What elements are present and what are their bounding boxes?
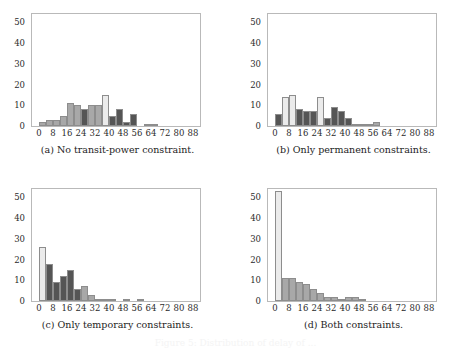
bar-d-x24 bbox=[317, 293, 324, 301]
x-tick-d-72: 72 bbox=[396, 304, 407, 313]
bars-c bbox=[32, 189, 200, 301]
x-tick-c-48: 48 bbox=[118, 304, 129, 313]
y-tick-c-40: 40 bbox=[14, 214, 25, 223]
bar-a-x48 bbox=[123, 122, 130, 126]
bar-d-x28 bbox=[324, 297, 331, 301]
x-tick-a-24: 24 bbox=[76, 129, 87, 138]
y-tick-b-10: 10 bbox=[250, 101, 261, 110]
y-tick-c-30: 30 bbox=[14, 235, 25, 244]
y-tick-a-10: 10 bbox=[14, 101, 25, 110]
plot-area-d bbox=[267, 188, 437, 302]
x-tick-d-40: 40 bbox=[340, 304, 351, 313]
y-tick-c-10: 10 bbox=[14, 276, 25, 285]
bar-b-x8 bbox=[289, 95, 296, 126]
y-tick-d-0: 0 bbox=[256, 297, 261, 306]
x-tick-c-72: 72 bbox=[160, 304, 171, 313]
bar-a-x40 bbox=[109, 116, 116, 126]
x-axis-labels-d: 0816243240485664728088 bbox=[267, 304, 437, 316]
x-tick-a-64: 64 bbox=[146, 129, 157, 138]
x-tick-d-8: 8 bbox=[286, 304, 291, 313]
subfigure-b: 01020304050 0816243240485664728088 (b) O… bbox=[236, 0, 471, 174]
x-tick-a-8: 8 bbox=[50, 129, 55, 138]
y-tick-c-0: 0 bbox=[20, 297, 25, 306]
subfigure-caption-d: (d) Both constraints. bbox=[236, 319, 471, 330]
bar-a-x4 bbox=[46, 120, 53, 126]
bar-a-x20 bbox=[74, 105, 81, 126]
bar-b-x28 bbox=[324, 118, 331, 126]
y-tick-d-40: 40 bbox=[250, 214, 261, 223]
x-tick-a-48: 48 bbox=[118, 129, 129, 138]
y-tick-d-20: 20 bbox=[250, 255, 261, 264]
x-tick-c-16: 16 bbox=[62, 304, 73, 313]
bar-a-x44 bbox=[116, 109, 123, 126]
y-tick-d-10: 10 bbox=[250, 276, 261, 285]
x-tick-b-32: 32 bbox=[326, 129, 337, 138]
x-tick-b-0: 0 bbox=[272, 129, 277, 138]
bar-c-x28 bbox=[88, 295, 95, 301]
y-axis-labels-c: 01020304050 bbox=[0, 188, 28, 302]
x-tick-a-88: 88 bbox=[188, 129, 199, 138]
x-tick-a-80: 80 bbox=[174, 129, 185, 138]
x-tick-d-16: 16 bbox=[298, 304, 309, 313]
bar-d-x20 bbox=[310, 289, 317, 301]
bar-d-x8 bbox=[289, 278, 296, 301]
x-tick-c-88: 88 bbox=[188, 304, 199, 313]
x-tick-a-32: 32 bbox=[90, 129, 101, 138]
y-axis-labels-d: 01020304050 bbox=[236, 188, 264, 302]
x-tick-d-24: 24 bbox=[312, 304, 323, 313]
y-tick-d-30: 30 bbox=[250, 235, 261, 244]
bar-d-x48 bbox=[359, 299, 366, 301]
x-tick-c-56: 56 bbox=[132, 304, 143, 313]
bar-a-x36 bbox=[102, 95, 109, 126]
bar-b-x40 bbox=[345, 118, 352, 126]
bar-c-x36 bbox=[102, 299, 109, 301]
x-tick-b-8: 8 bbox=[286, 129, 291, 138]
bar-b-x32 bbox=[331, 107, 338, 126]
x-tick-d-56: 56 bbox=[368, 304, 379, 313]
plot-area-c bbox=[31, 188, 201, 302]
bar-b-x44 bbox=[352, 124, 359, 126]
y-tick-b-40: 40 bbox=[250, 39, 261, 48]
y-tick-c-50: 50 bbox=[14, 193, 25, 202]
bar-b-x24 bbox=[317, 97, 324, 126]
bar-d-x16 bbox=[303, 284, 310, 301]
figure-container: 01020304050 0816243240485664728088 (a) N… bbox=[0, 0, 471, 349]
bar-d-x32 bbox=[331, 297, 338, 301]
bar-b-x4 bbox=[282, 97, 289, 126]
x-tick-d-0: 0 bbox=[272, 304, 277, 313]
y-axis-labels-a: 01020304050 bbox=[0, 13, 28, 127]
x-tick-c-40: 40 bbox=[104, 304, 115, 313]
bar-d-x12 bbox=[296, 282, 303, 301]
y-tick-a-40: 40 bbox=[14, 39, 25, 48]
y-tick-b-50: 50 bbox=[250, 18, 261, 27]
bar-c-x24 bbox=[81, 286, 88, 301]
x-tick-b-64: 64 bbox=[382, 129, 393, 138]
bar-c-x8 bbox=[53, 282, 60, 301]
bar-c-x32 bbox=[95, 299, 102, 301]
x-tick-c-32: 32 bbox=[90, 304, 101, 313]
bar-a-x16 bbox=[67, 103, 74, 126]
x-tick-c-80: 80 bbox=[174, 304, 185, 313]
bar-c-x0 bbox=[39, 247, 46, 301]
bar-b-x0 bbox=[275, 114, 282, 126]
y-tick-b-20: 20 bbox=[250, 80, 261, 89]
bar-b-x16 bbox=[303, 111, 310, 126]
x-tick-c-0: 0 bbox=[36, 304, 41, 313]
x-tick-b-48: 48 bbox=[354, 129, 365, 138]
bar-b-x48 bbox=[359, 124, 366, 126]
x-axis-labels-a: 0816243240485664728088 bbox=[31, 129, 201, 141]
bars-b bbox=[268, 14, 436, 126]
figure-caption: Figure 5: Distribution of delay of ... bbox=[0, 338, 471, 348]
bar-c-x4 bbox=[46, 264, 53, 301]
bar-c-x48 bbox=[123, 299, 130, 301]
bar-c-x40 bbox=[109, 299, 116, 301]
x-tick-d-80: 80 bbox=[410, 304, 421, 313]
x-tick-c-8: 8 bbox=[50, 304, 55, 313]
plot-area-b bbox=[267, 13, 437, 127]
x-tick-a-72: 72 bbox=[160, 129, 171, 138]
x-tick-a-40: 40 bbox=[104, 129, 115, 138]
x-tick-b-16: 16 bbox=[298, 129, 309, 138]
x-tick-b-88: 88 bbox=[424, 129, 435, 138]
bar-d-x44 bbox=[352, 297, 359, 301]
bar-b-x52 bbox=[366, 124, 373, 126]
